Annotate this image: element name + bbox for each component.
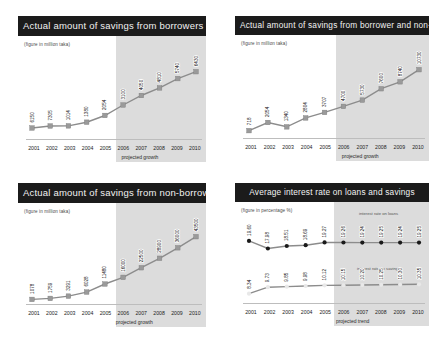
x-tick: 2003 (280, 309, 296, 315)
projection-note: projected growth (342, 153, 379, 159)
x-tick: 2007 (354, 144, 370, 150)
svg-text:9.98: 9.98 (303, 272, 308, 281)
x-tick: 2003 (62, 145, 78, 151)
svg-text:11480: 11480 (102, 266, 107, 279)
svg-text:8740: 8740 (398, 66, 403, 77)
projection-note: projected trend (336, 318, 369, 324)
chart-panel-savings-borrower-and-nonborrowers: Actual amount of savings from borrower a… (235, 16, 429, 171)
x-tick: 2009 (169, 145, 185, 151)
x-tick: 2001 (243, 309, 259, 315)
svg-text:4700: 4700 (341, 90, 346, 101)
x-tick: 2002 (44, 310, 60, 316)
line-series-svg: 6150730510141380205431004050481057406430 (18, 36, 206, 162)
x-tick: 2008 (373, 144, 389, 150)
x-tick: 2002 (262, 144, 278, 150)
x-tick: 2009 (391, 309, 407, 315)
svg-text:10730: 10730 (417, 51, 422, 64)
svg-text:3291: 3291 (66, 280, 71, 291)
svg-text:2804: 2804 (303, 102, 308, 113)
x-tick: 2005 (317, 309, 333, 315)
chart-title: Actual amount of savings from borrower a… (235, 16, 429, 35)
x-axis-year-labels: 2001 2002 2003 2004 2005 2006 2007 2008 … (26, 310, 203, 316)
svg-text:1759: 1759 (48, 282, 53, 293)
svg-text:8.34: 8.34 (247, 279, 252, 288)
x-tick: 2001 (26, 310, 42, 316)
svg-text:7600: 7600 (379, 73, 384, 84)
svg-text:1078: 1078 (30, 283, 35, 294)
svg-text:19.26: 19.26 (341, 226, 346, 238)
svg-text:17.98: 17.98 (265, 232, 270, 244)
svg-text:9.85: 9.85 (284, 272, 289, 281)
svg-text:19.60: 19.60 (247, 224, 252, 236)
line-series-svg: 19.6017.9818.5118.6919.2719.2619.2419.25… (235, 202, 429, 326)
x-axis-line (26, 304, 202, 305)
x-tick: 2005 (98, 145, 114, 151)
svg-text:10.15: 10.15 (341, 268, 346, 280)
svg-text:19.25: 19.25 (417, 226, 422, 238)
x-tick: 2006 (115, 145, 131, 151)
x-tick: 2007 (133, 310, 149, 316)
x-tick: 2005 (98, 310, 114, 316)
plot-area: (figure in million taka) 718205413402804… (235, 35, 429, 161)
svg-text:1380: 1380 (84, 106, 89, 117)
x-axis-line (26, 139, 202, 140)
svg-text:19.24: 19.24 (398, 226, 403, 238)
chart-title: Actual amount of savings from borrowers (18, 16, 206, 36)
x-tick: 2004 (299, 309, 315, 315)
chart-panel-savings-borrowers: Actual amount of savings from borrowers … (18, 16, 206, 171)
svg-text:18.69: 18.69 (303, 228, 308, 240)
svg-text:10.35: 10.35 (417, 267, 422, 279)
x-tick: 2006 (336, 309, 352, 315)
chart-title: Actual amount of savings from non-borrow… (18, 183, 206, 203)
x-tick: 2004 (299, 144, 315, 150)
x-tick: 2004 (80, 145, 96, 151)
line-series-svg: 1078175932916028114801600022500289003600… (18, 203, 206, 327)
svg-text:10.12: 10.12 (322, 268, 327, 280)
svg-text:10.25: 10.25 (379, 268, 384, 280)
x-tick: 2010 (187, 145, 203, 151)
svg-text:43500: 43500 (194, 218, 199, 231)
svg-text:18.51: 18.51 (284, 229, 289, 241)
svg-text:6028: 6028 (84, 276, 89, 287)
svg-text:4810: 4810 (157, 72, 162, 83)
svg-text:6430: 6430 (194, 56, 199, 67)
x-tick: 2003 (62, 310, 78, 316)
svg-text:1340: 1340 (284, 111, 289, 122)
plot-area: (figure in million taka) 615073051014138… (18, 36, 206, 162)
chart-panel-interest-rates: Average interest rate on loans and savin… (235, 183, 429, 335)
x-tick: 2010 (410, 309, 426, 315)
plot-area: (figure in million taka) 107817593291602… (18, 203, 206, 327)
svg-text:16000: 16000 (121, 259, 126, 272)
x-axis-year-labels: 2001 2002 2003 2004 2005 2006 2007 2008 … (26, 145, 203, 151)
svg-text:19.27: 19.27 (322, 226, 327, 238)
svg-text:19.25: 19.25 (379, 226, 384, 238)
x-tick: 2009 (169, 310, 185, 316)
x-tick: 2010 (187, 310, 203, 316)
x-tick: 2006 (115, 310, 131, 316)
x-axis-year-labels: 2001 2002 2003 2004 2005 2006 2007 2008 … (243, 144, 426, 150)
svg-text:10.20: 10.20 (360, 268, 365, 280)
x-tick: 2002 (262, 309, 278, 315)
x-axis-line (243, 303, 425, 304)
x-tick: 2004 (80, 310, 96, 316)
svg-text:19.24: 19.24 (360, 226, 365, 238)
x-tick: 2008 (151, 310, 167, 316)
svg-text:6150: 6150 (30, 112, 35, 123)
svg-text:36000: 36000 (175, 229, 180, 242)
x-tick: 2003 (280, 144, 296, 150)
x-tick: 2002 (44, 145, 60, 151)
x-tick: 2007 (133, 145, 149, 151)
x-tick: 2008 (151, 145, 167, 151)
svg-text:3707: 3707 (322, 96, 327, 107)
svg-text:3100: 3100 (121, 89, 126, 100)
x-tick: 2009 (391, 144, 407, 150)
svg-text:22500: 22500 (139, 249, 144, 262)
x-tick: 2008 (373, 309, 389, 315)
svg-text:1014: 1014 (66, 110, 71, 121)
svg-text:5730: 5730 (360, 84, 365, 95)
chart-panel-savings-nonborrowers: Actual amount of savings from non-borrow… (18, 183, 206, 335)
svg-text:9.73: 9.73 (265, 273, 270, 282)
chart-title: Average interest rate on loans and savin… (235, 183, 429, 202)
svg-text:2054: 2054 (102, 99, 107, 110)
x-tick: 2006 (336, 144, 352, 150)
